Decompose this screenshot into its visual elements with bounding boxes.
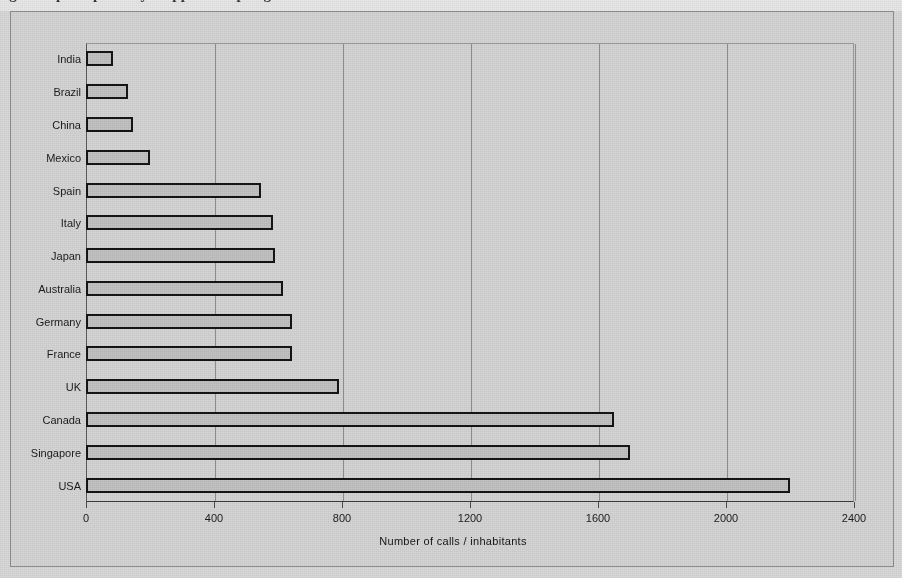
category-label-germany: Germany [15, 306, 81, 338]
figure-frame: IndiaBrazilChinaMexicoSpainItalyJapanAus… [10, 11, 894, 567]
category-label-usa: USA [15, 470, 81, 502]
tick-400 [214, 502, 215, 508]
xtick-label-0: 0 [83, 512, 89, 524]
category-label-canada: Canada [15, 404, 81, 436]
xtick-label-1200: 1200 [458, 512, 482, 524]
category-label-mexico: Mexico [15, 142, 81, 174]
category-label-india: India [15, 43, 81, 75]
x-axis-title: Number of calls / inhabitants [11, 535, 895, 547]
category-label-australia: Australia [15, 273, 81, 305]
category-label-singapore: Singapore [15, 437, 81, 469]
category-labels-layer: IndiaBrazilChinaMexicoSpainItalyJapanAus… [11, 43, 895, 502]
category-label-spain: Spain [15, 175, 81, 207]
category-label-china: China [15, 109, 81, 141]
tick-2000 [726, 502, 727, 508]
x-axis-ticks [86, 502, 854, 510]
cropped-caption-strip: figure caption partially cropped at top … [0, 0, 902, 11]
tick-0 [86, 502, 87, 508]
tick-2400 [854, 502, 855, 508]
category-label-france: France [15, 338, 81, 370]
category-label-japan: Japan [15, 240, 81, 272]
cropped-caption-text: figure caption partially cropped at top … [0, 0, 902, 3]
category-label-brazil: Brazil [15, 76, 81, 108]
x-axis-tick-labels: 04008001200160020002400 [86, 512, 854, 530]
category-label-italy: Italy [15, 207, 81, 239]
category-label-uk: UK [15, 371, 81, 403]
xtick-label-2000: 2000 [714, 512, 738, 524]
xtick-label-800: 800 [333, 512, 351, 524]
tick-800 [342, 502, 343, 508]
xtick-label-1600: 1600 [586, 512, 610, 524]
tick-1200 [470, 502, 471, 508]
xtick-label-400: 400 [205, 512, 223, 524]
xtick-label-2400: 2400 [842, 512, 866, 524]
tick-1600 [598, 502, 599, 508]
